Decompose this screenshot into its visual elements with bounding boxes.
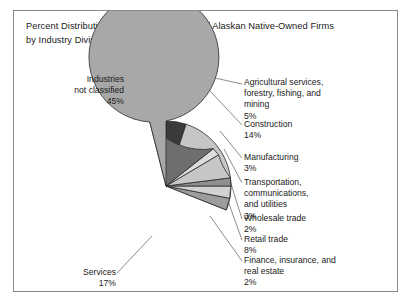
leader-finance xyxy=(210,216,242,261)
label-industries-not-classified: Industries not classified 45% xyxy=(24,74,124,108)
pie-slices xyxy=(89,11,231,210)
label-wholesale-trade: Wholesale trade 2% xyxy=(244,213,394,235)
label-agricultural-line-2: forestry, fishing, and xyxy=(244,88,321,98)
label-services-percent: 17% xyxy=(24,278,116,289)
label-transportation-line-1: Transportation, xyxy=(244,177,301,187)
label-wholesale-line-1: Wholesale trade xyxy=(244,213,306,223)
label-unclassified-percent: 45% xyxy=(24,96,124,107)
label-finance-line-1: Finance, insurance, and xyxy=(244,255,336,265)
label-agricultural-line-3: mining xyxy=(244,99,269,109)
label-retail-line-1: Retail trade xyxy=(244,234,288,244)
label-finance-percent: 2% xyxy=(244,277,396,288)
label-transportation-line-3: and utilities xyxy=(244,199,287,209)
label-construction-line-1: Construction xyxy=(244,119,292,129)
label-construction: Construction 14% xyxy=(244,119,394,141)
label-services-line-1: Services xyxy=(83,267,116,277)
label-services: Services 17% xyxy=(24,267,116,289)
label-agricultural-line-1: Agricultural services, xyxy=(244,77,323,87)
label-manufacturing-percent: 3% xyxy=(244,163,394,174)
label-manufacturing-line-1: Manufacturing xyxy=(244,152,298,162)
label-construction-percent: 14% xyxy=(244,130,394,141)
label-retail-trade: Retail trade 8% xyxy=(244,234,394,256)
label-unclassified-line-1: Industries xyxy=(87,74,124,84)
label-manufacturing: Manufacturing 3% xyxy=(244,152,394,174)
leader-manufacturing xyxy=(220,131,242,158)
label-agricultural-services: Agricultural services, forestry, fishing… xyxy=(244,77,394,122)
figure-panel: Percent Distribution of American Indian-… xyxy=(13,10,398,292)
label-finance-line-2: real estate xyxy=(244,266,284,276)
leader-services xyxy=(117,236,152,273)
label-transportation-line-2: communications, xyxy=(244,188,308,198)
label-finance-insurance: Finance, insurance, and real estate 2% xyxy=(244,255,396,289)
leader-construction xyxy=(210,91,242,125)
label-unclassified-line-2: not classified xyxy=(74,85,124,95)
